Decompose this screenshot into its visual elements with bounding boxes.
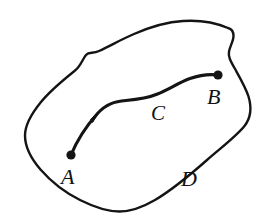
point-a-marker-dot: [66, 150, 75, 159]
figure-canvas: A B C D: [0, 0, 264, 220]
region-boundary-outline: [25, 21, 250, 212]
diagram-svg: [0, 0, 264, 220]
label-region-d: D: [181, 168, 197, 190]
point-b-marker-dot: [213, 70, 222, 79]
directed-curve-path: [71, 75, 218, 155]
label-point-b: B: [207, 86, 220, 108]
label-curve-c: C: [151, 103, 165, 124]
label-point-a: A: [61, 166, 74, 188]
